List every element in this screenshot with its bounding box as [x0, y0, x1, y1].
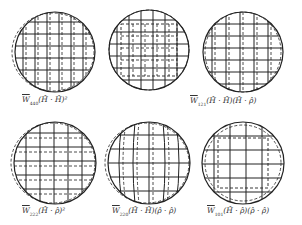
label-w101: W101(Ĥ · ρ̂)(ρ̂ · ρ̂) — [207, 206, 269, 217]
label-w220: W220(Ĥ · Ĥ)(ρ̂ · ρ̂) — [112, 206, 176, 217]
wavefront-aberration-diagram — [0, 0, 302, 225]
panel-w-inner-square — [202, 122, 284, 204]
label-w440: W440(Ĥ · Ĥ)² — [22, 95, 67, 106]
label-w222: W222(Ĥ · ρ̂)² — [22, 206, 65, 217]
panel-w121 — [109, 10, 189, 90]
panel-w101 — [105, 122, 190, 204]
panel-w440 — [12, 12, 95, 92]
panel-w220 — [11, 122, 96, 204]
panel-w222 — [203, 12, 283, 92]
label-w121: W121(Ĥ · Ĥ)(Ĥ · ρ̂) — [190, 96, 256, 107]
